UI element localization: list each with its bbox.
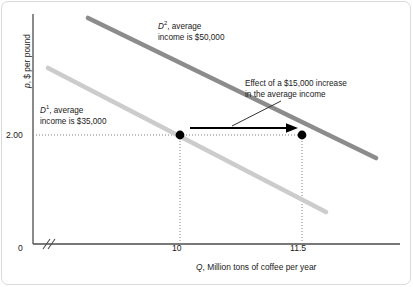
curve-label-d1-line2: income is $35,000: [40, 117, 106, 126]
y-axis-title: p, $ per pound: [22, 13, 32, 109]
origin-label: 0: [18, 243, 23, 253]
y-axis-title-text: , $ per pound: [22, 34, 32, 83]
x-axis-title: Q, Million tons of coffee per year: [196, 262, 316, 272]
effect-annotation: Effect of a $15,000 increasein the avera…: [245, 79, 347, 100]
effect-annotation-line2: in the average income: [245, 90, 326, 99]
y-axis-title-symbol: p: [22, 83, 32, 88]
equilibrium-point-d1: [176, 131, 185, 140]
curve-label-d2-line2: income is $50,000: [158, 33, 224, 42]
equilibrium-point-d2: [298, 131, 307, 140]
curve-label-d2-line1: , average: [167, 22, 201, 31]
curve-label-d1-line1: , average: [49, 106, 83, 115]
x-axis-title-text: , Million tons of coffee per year: [203, 262, 317, 272]
effect-leader-line: [232, 101, 281, 126]
x-tick-label-11-5: 11.5: [290, 243, 306, 253]
chart-canvas: [0, 0, 413, 287]
y-tick-label-200: 2.00: [6, 130, 23, 140]
effect-annotation-line1: Effect of a $15,000 increase: [245, 79, 347, 88]
curve-label-d2: D2, averageincome is $50,000: [158, 22, 224, 43]
demand-shift-figure: p, $ per pound Q, Million tons of coffee…: [0, 0, 413, 287]
x-tick-label-10: 10: [172, 243, 182, 253]
shift-arrow-icon: [190, 123, 298, 133]
curve-label-d1: D1, averageincome is $35,000: [40, 106, 106, 127]
